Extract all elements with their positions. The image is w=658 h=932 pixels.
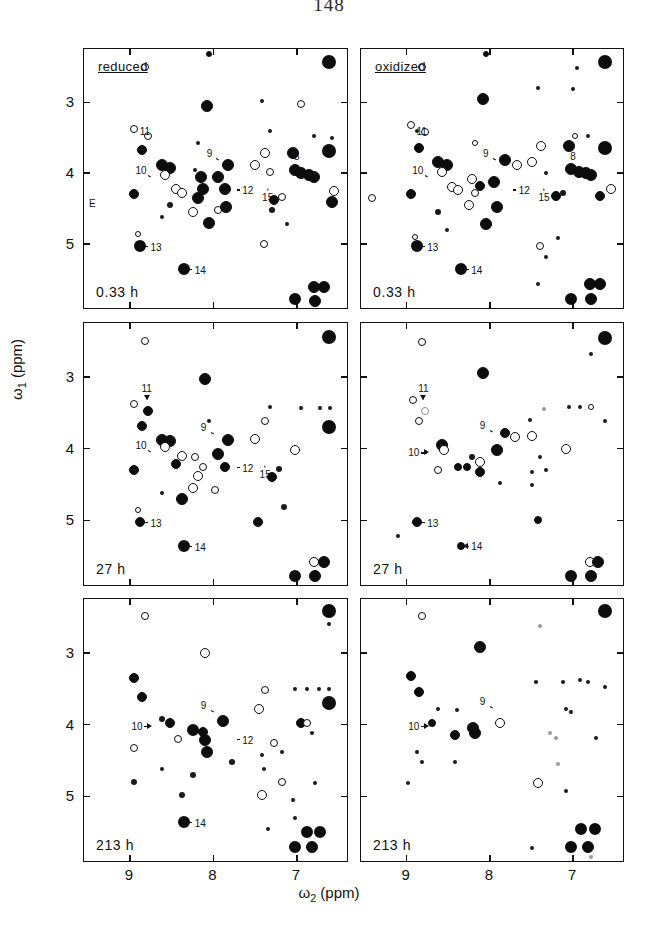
cross-peak [480, 218, 492, 230]
cross-peak [290, 445, 300, 455]
cross-peak [572, 133, 578, 139]
x-tick-8 [489, 323, 490, 329]
cross-peak [561, 680, 565, 684]
cross-peak [536, 86, 540, 90]
cross-peak [191, 453, 199, 461]
cross-peak [192, 192, 204, 204]
y-tick-label-4: 4 [66, 715, 74, 732]
cross-peak [561, 444, 571, 454]
panel-time-label: 0.33 h [96, 284, 139, 300]
x-tick-7 [296, 49, 297, 55]
nmr-panel-reduced-0.33h: 10119812151314Ereduced0.33 h [83, 48, 348, 309]
cross-peak [415, 750, 419, 754]
peak-leader-line [189, 822, 192, 823]
x-tick-7 [296, 599, 297, 605]
cross-peak [201, 746, 213, 758]
cross-peak [260, 240, 268, 248]
cross-peak [176, 493, 188, 505]
cross-peak [188, 483, 198, 493]
peak-leader-line [489, 430, 492, 433]
cross-peak [564, 707, 568, 711]
peak-label-14: 14 [195, 817, 206, 828]
cross-peak [143, 406, 153, 416]
cross-peak [495, 718, 505, 728]
cross-peak [129, 673, 139, 683]
cross-peak [512, 160, 522, 170]
y-tick-4 [84, 724, 90, 725]
cross-peak [453, 185, 463, 195]
x-tick-7 [572, 855, 573, 861]
plot-area: 1011912151314 [84, 323, 347, 585]
cross-peak [542, 407, 546, 411]
y-tick-4 [341, 448, 347, 449]
cross-peak [575, 823, 587, 835]
cross-peak [327, 622, 331, 626]
cross-peak [453, 760, 457, 764]
y-tick-3 [84, 652, 90, 653]
cross-peak [289, 841, 301, 853]
cross-peak [565, 841, 577, 853]
cross-peak [544, 171, 548, 175]
plot-area: 109 [361, 599, 623, 861]
cross-peak [510, 432, 520, 442]
peak-label-11: 11 [418, 383, 428, 394]
y-tick-label-3: 3 [66, 367, 74, 384]
cross-peak [229, 759, 235, 765]
cross-peak [318, 556, 330, 568]
cross-peak [527, 431, 537, 441]
cross-peak [203, 217, 215, 229]
peak-label-13: 13 [150, 517, 161, 528]
cross-peak [421, 407, 429, 415]
y-tick-5 [361, 796, 367, 797]
cross-peak [219, 183, 231, 195]
peak-leader-line [493, 158, 496, 161]
plot-area: 1091214 [84, 599, 347, 861]
cross-peak [589, 823, 601, 835]
cross-peak [565, 293, 577, 305]
x-axis-title-omega: ω2 (ppm) [298, 884, 359, 901]
x-tick-8 [213, 579, 214, 585]
cross-peak [199, 734, 211, 746]
x-tick-8 [213, 323, 214, 329]
peak-leader-line [237, 739, 240, 740]
cross-peak [322, 144, 336, 158]
peak-leader-line [422, 246, 425, 247]
peak-leader-line [189, 269, 192, 270]
y-tick-4 [617, 724, 623, 725]
cross-peak [260, 148, 270, 158]
y-tick-5 [341, 520, 347, 521]
cross-peak [548, 731, 552, 735]
cross-peak [322, 696, 336, 710]
x-tick-8 [489, 855, 490, 861]
peak-label-9: 9 [201, 421, 207, 432]
peak-leader-line [424, 175, 427, 178]
cross-peak [301, 826, 313, 838]
peak-label-12: 12 [242, 734, 253, 745]
peak-label-9: 9 [201, 699, 207, 710]
peak-leader-line [189, 546, 192, 547]
peak-leader-arrowhead [147, 723, 152, 729]
cross-peak [260, 753, 264, 757]
cross-peak [174, 735, 182, 743]
cross-peak [595, 191, 605, 201]
y-tick-5 [361, 520, 367, 521]
peak-leader-line [210, 710, 213, 713]
x-tick-7 [572, 49, 573, 55]
cross-peak [281, 504, 287, 510]
y-tick-label-5: 5 [66, 787, 74, 804]
peak-label-15: 15 [260, 468, 271, 479]
nmr-panel-oxidized-0.33h: 10119812151314oxidized0.33 h [360, 48, 624, 309]
peak-leader-line [145, 246, 148, 247]
x-tick-9 [406, 599, 407, 605]
cross-peak [455, 708, 459, 712]
cross-peak [278, 778, 286, 786]
panel-state-label: reduced [98, 59, 148, 74]
cross-peak [567, 405, 571, 409]
y-tick-4 [341, 172, 347, 173]
peak-leader-line [237, 467, 240, 468]
cross-peak [291, 798, 295, 802]
cross-peak [498, 481, 502, 485]
cross-peak [222, 159, 234, 171]
cross-peak [544, 255, 548, 259]
cross-peak [418, 612, 426, 620]
